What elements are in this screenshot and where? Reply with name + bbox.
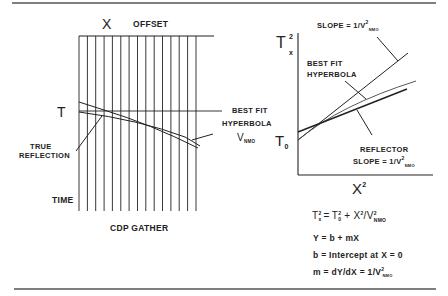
tx2-symbol: T [276, 34, 286, 51]
x2-superscript: 2 [362, 181, 366, 188]
t0-subscript: 0 [284, 143, 288, 150]
eq1-lhs-sub: x [319, 216, 322, 222]
eq1-v-sub: NMO [374, 217, 387, 223]
offset-axis-symbol: X [102, 17, 112, 31]
best-fit-leader [192, 134, 213, 140]
reflector-sub: NMO [405, 163, 415, 168]
best-fit-hyperbola-curve [79, 102, 198, 148]
tx2-subscript: x [289, 49, 293, 56]
equation-4: m = dY/dX = 1/V2NMO [313, 268, 393, 277]
cdp-gather-caption: CDP GATHER [110, 224, 168, 233]
vnmo-symbol: V [237, 132, 244, 143]
true-reflection-label-2: REFLECTION [19, 152, 70, 160]
x2-axis-label: X2 [352, 181, 367, 196]
equation-3: b = Intercept at X = 0 [313, 251, 403, 260]
slope-top-sub: NMO [369, 27, 379, 32]
right-best-fit-label-2: HYPERBOLA [307, 71, 357, 79]
reflector-sup: 2 [402, 155, 405, 161]
x2-symbol: X [352, 180, 362, 197]
eq1-div-v: /V [364, 210, 374, 221]
time-symbol: T [57, 105, 66, 119]
equation-2: Y = b + mX [313, 234, 359, 243]
vnmo-label: VNMO [237, 133, 255, 143]
reflector-slope-text: SLOPE = 1/V [353, 157, 402, 166]
true-reflection-leader [76, 116, 102, 151]
best-fit-label-1: BEST FIT [232, 107, 268, 115]
tx2-axis-label: T [276, 35, 286, 51]
slope-top-text: SLOPE = 1/V [317, 21, 366, 30]
true-reflection-curve [79, 112, 200, 146]
nmo-diagram: X OFFSET T TRUE REFLECTION TIME CDP GATH… [0, 0, 448, 296]
eq1-plus: + [344, 210, 350, 221]
offset-axis-label: OFFSET [133, 20, 168, 29]
slope-leader [377, 37, 398, 61]
equation-1: T2x=T20+X2/V2NMO [312, 211, 386, 221]
eq1-t0-sub: 0 [338, 216, 341, 222]
reflector-leader [357, 110, 372, 135]
slope-top-label: SLOPE = 1/V2NMO [317, 22, 379, 30]
eq1-equals: = [324, 210, 330, 221]
eq1-x-sup: 2 [360, 210, 363, 216]
cdp-gather-traces [79, 36, 214, 211]
time-axis-label: TIME [52, 196, 74, 205]
right-best-fit-leader [345, 81, 366, 99]
eq4-sup: 2 [381, 266, 384, 272]
t0-label: T0 [275, 133, 289, 148]
right-best-fit-label-1: BEST FIT [307, 60, 343, 68]
slope-top-sup: 2 [366, 19, 369, 25]
eq1-v-sup: 2 [374, 210, 377, 216]
true-reflection-label-1: TRUE [30, 143, 52, 151]
vnmo-subscript: NMO [244, 139, 255, 144]
tx2-superscript: 2 [289, 33, 293, 40]
best-fit-label-2: HYPERBOLA [222, 120, 272, 128]
reflector-line [298, 89, 407, 132]
eq4-text: m = dY/dX = 1/V [313, 267, 381, 277]
eq4-sub: NMO [382, 273, 392, 278]
reflector-label-2: SLOPE = 1/V2NMO [353, 158, 415, 166]
reflector-label-1: REFLECTOR [360, 146, 408, 154]
